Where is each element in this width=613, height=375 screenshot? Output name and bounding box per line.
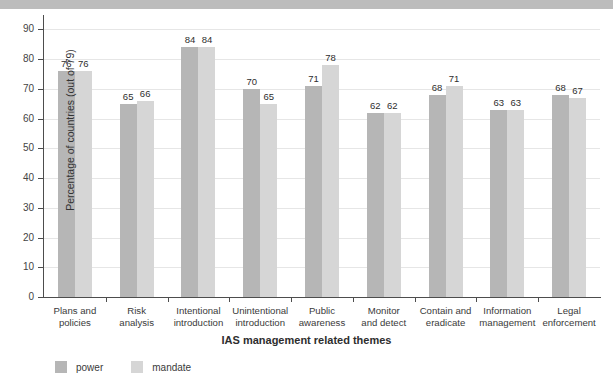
- y-tick: [38, 238, 44, 239]
- x-tick: [415, 297, 416, 302]
- legend-label: power: [76, 362, 103, 373]
- bar-power: [490, 110, 507, 297]
- plot-area: 767665668484706571786262687163636867 Per…: [44, 19, 600, 297]
- x-tick-label: Contain anderadicate: [415, 305, 477, 328]
- bar-mandate: [569, 98, 586, 297]
- bar-power: [181, 47, 198, 297]
- x-tick: [476, 297, 477, 302]
- x-tick-label-line: Information: [476, 305, 538, 317]
- bar-power: [305, 86, 322, 297]
- y-tick: [38, 148, 44, 149]
- bar-power: [367, 113, 384, 297]
- x-tick: [168, 297, 169, 302]
- y-tick: [38, 267, 44, 268]
- bar-mandate: [384, 113, 401, 297]
- x-tick-label-line: analysis: [106, 317, 168, 329]
- x-tick: [291, 297, 292, 302]
- y-tick: [38, 119, 44, 120]
- bar-mandate: [446, 86, 463, 297]
- y-tick-label: 0: [0, 291, 34, 302]
- bar-mandate: [198, 47, 215, 297]
- bar-mandate: [507, 110, 524, 297]
- bar-power: [429, 95, 446, 297]
- bar-value-label: 78: [318, 52, 344, 63]
- bar-value-label: 66: [132, 88, 158, 99]
- x-tick-label-line: introduction: [168, 317, 230, 329]
- bar-mandate: [137, 101, 154, 297]
- bar-value-label: 84: [194, 34, 220, 45]
- x-tick-label-line: introduction: [229, 317, 291, 329]
- x-tick-label-line: Monitor: [353, 305, 415, 317]
- x-tick-label-line: Public: [291, 305, 353, 317]
- x-tick-label-line: Unintentional: [229, 305, 291, 317]
- window-title-bar: [0, 0, 613, 9]
- x-tick-label-line: Legal: [538, 305, 600, 317]
- bar-value-label: 71: [301, 73, 327, 84]
- bar-mandate: [322, 65, 339, 297]
- y-tick-label: 20: [0, 232, 34, 243]
- y-tick-label: 70: [0, 83, 34, 94]
- y-tick: [38, 178, 44, 179]
- bar-mandate: [75, 71, 92, 297]
- legend-swatch: [55, 361, 67, 373]
- bar-value-label: 65: [256, 91, 282, 102]
- x-tick-label: Informationmanagement: [476, 305, 538, 328]
- bar-chart: 767665668484706571786262687163636867 Per…: [0, 9, 613, 375]
- x-tick-label-line: management: [476, 317, 538, 329]
- x-tick-label-line: Risk: [106, 305, 168, 317]
- x-tick-label: Riskanalysis: [106, 305, 168, 328]
- y-tick-label: 50: [0, 142, 34, 153]
- x-tick-label: Unintentionalintroduction: [229, 305, 291, 328]
- legend-label: mandate: [152, 362, 191, 373]
- x-axis-title: IAS management related themes: [0, 334, 613, 346]
- y-tick: [38, 89, 44, 90]
- bar-value-label: 70: [239, 76, 265, 87]
- y-tick: [38, 208, 44, 209]
- x-tick-label-line: awareness: [291, 317, 353, 329]
- y-tick: [38, 297, 44, 298]
- y-axis-line: [43, 15, 44, 298]
- y-tick-label: 10: [0, 261, 34, 272]
- x-tick-label: Monitorand detect: [353, 305, 415, 328]
- bar-mandate: [260, 104, 277, 297]
- x-tick: [229, 297, 230, 302]
- y-tick-label: 60: [0, 113, 34, 124]
- bar-value-label: 62: [379, 100, 405, 111]
- x-tick-label: Intentionalintroduction: [168, 305, 230, 328]
- bar-power: [120, 104, 137, 297]
- x-tick-label-line: enforcement: [538, 317, 600, 329]
- bar-value-label: 71: [441, 73, 467, 84]
- x-tick: [106, 297, 107, 302]
- x-tick: [353, 297, 354, 302]
- bar-power: [243, 89, 260, 297]
- legend-item[interactable]: power: [55, 361, 103, 373]
- bar-value-label: 67: [565, 85, 591, 96]
- legend-item[interactable]: mandate: [131, 361, 191, 373]
- x-axis-line: [44, 297, 601, 298]
- x-tick-label-line: Intentional: [168, 305, 230, 317]
- x-tick-label-line: Plans and: [44, 305, 106, 317]
- gridline: [44, 29, 600, 30]
- legend-swatch: [131, 361, 143, 373]
- y-axis-title: Percentage of countries (out of 79): [64, 0, 76, 260]
- x-tick-label-line: eradicate: [415, 317, 477, 329]
- y-tick-label: 80: [0, 53, 34, 64]
- x-tick-label-line: policies: [44, 317, 106, 329]
- bar-value-label: 63: [503, 97, 529, 108]
- y-tick-label: 40: [0, 172, 34, 183]
- y-tick-label: 30: [0, 202, 34, 213]
- x-tick: [538, 297, 539, 302]
- y-tick-label: 90: [0, 23, 34, 34]
- x-tick-label: Plans andpolicies: [44, 305, 106, 328]
- x-tick-label: Publicawareness: [291, 305, 353, 328]
- x-tick-label: Legalenforcement: [538, 305, 600, 328]
- y-tick: [38, 59, 44, 60]
- chart-legend: powermandate: [55, 361, 219, 373]
- y-tick: [38, 29, 44, 30]
- x-tick-label-line: and detect: [353, 317, 415, 329]
- x-tick-label-line: Contain and: [415, 305, 477, 317]
- bar-power: [552, 95, 569, 297]
